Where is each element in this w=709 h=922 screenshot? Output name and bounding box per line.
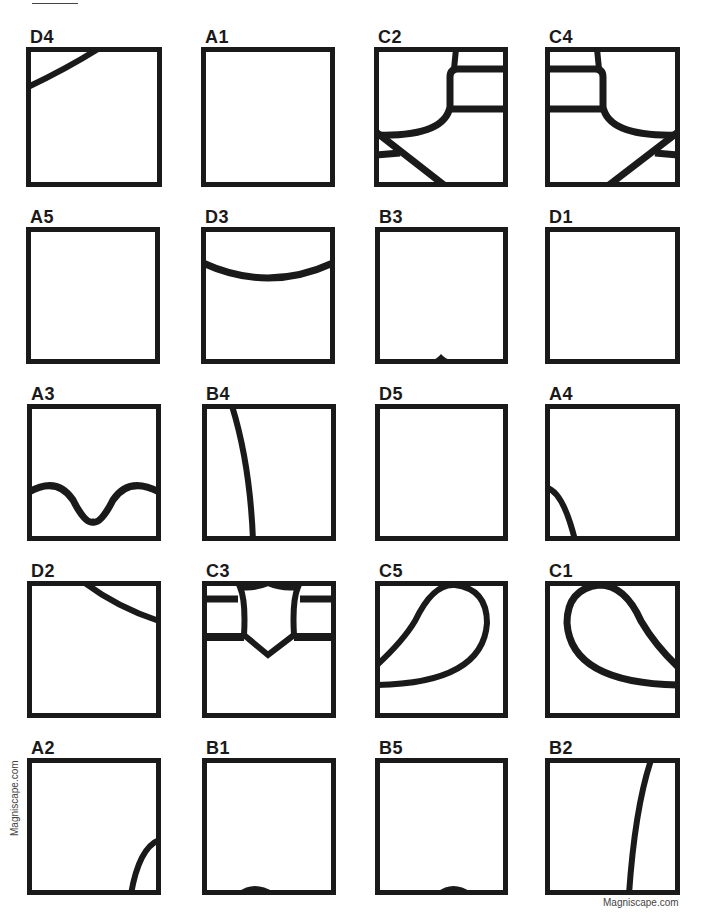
- side-watermark: Magniscape.com: [9, 760, 20, 836]
- tile-drawing-teardrop-right: [545, 581, 680, 718]
- tile-drawing-arc-bottom-left: [545, 404, 680, 541]
- tile-drawing-arc-top-right: [27, 581, 161, 718]
- tile-label: A1: [205, 27, 229, 47]
- tile-label: D3: [205, 207, 229, 227]
- tile-label: B3: [379, 207, 403, 227]
- tile-label: B4: [206, 384, 230, 404]
- tile-label: C1: [549, 561, 573, 581]
- tile-label: C4: [549, 27, 573, 47]
- tile-label: A4: [549, 384, 573, 404]
- tile-drawing-empty: [375, 404, 508, 541]
- tile-drawing-small-bump: [375, 227, 508, 364]
- tile-drawing-curve-right: [545, 758, 680, 895]
- tile-drawing-arc-bottom-right: [27, 758, 161, 895]
- tile-label: B5: [379, 738, 403, 758]
- tile-label: C3: [206, 561, 230, 581]
- tile-drawing-sagging-arc: [201, 227, 335, 364]
- tile-drawing-empty: [26, 227, 160, 364]
- clipped-instructions-strip: [0, 0, 709, 6]
- underlined-heading: [32, 0, 78, 4]
- tile-drawing-bump: [375, 758, 508, 895]
- bottom-watermark: Magniscape.com: [603, 897, 679, 908]
- tile-drawing-arc-top-left: [26, 47, 162, 187]
- tile-label: C2: [378, 27, 402, 47]
- tile-label: A5: [30, 207, 54, 227]
- tile-drawing-empty: [545, 227, 680, 364]
- tile-label: B2: [549, 738, 573, 758]
- tile-drawing-empty: [201, 47, 335, 187]
- tile-label: D4: [30, 27, 54, 47]
- tile-drawing-bump: [202, 758, 336, 895]
- tile-drawing-wave: [27, 404, 161, 541]
- tile-label: D1: [549, 207, 573, 227]
- tile-drawing-shield: [202, 581, 336, 718]
- tile-label: B1: [206, 738, 230, 758]
- tile-label: A3: [31, 384, 55, 404]
- tile-label: A2: [31, 738, 55, 758]
- tile-drawing-rounded-rect-diagonals: [374, 47, 508, 187]
- tile-drawing-rounded-rect-diagonals-mirrored: [545, 47, 680, 187]
- tile-drawing-curve-left: [202, 404, 336, 541]
- tile-drawing-teardrop-left: [375, 581, 508, 718]
- tile-label: D2: [31, 561, 55, 581]
- tile-label: D5: [379, 384, 403, 404]
- tile-label: C5: [379, 561, 403, 581]
